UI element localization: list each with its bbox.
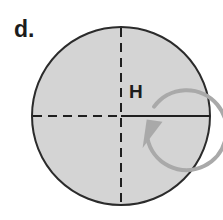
field-label: H — [129, 81, 143, 102]
figure-canvas: d. H — [0, 0, 223, 220]
panel-label: d. — [14, 16, 34, 42]
figure-panel-d: d. H — [0, 0, 223, 220]
